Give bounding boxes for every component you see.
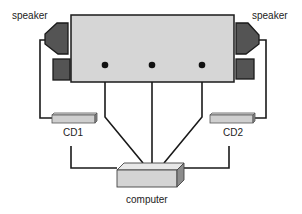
cd2-side: [253, 113, 255, 123]
cd2-drive: CD2: [210, 113, 255, 138]
wire-speaker-right-cd2: [254, 40, 266, 118]
speaker-left: speaker: [12, 10, 70, 80]
wire-cd1-computer: [71, 146, 117, 168]
cd1-label: CD1: [63, 127, 83, 138]
computer-front: [117, 170, 177, 187]
cd1-front: [52, 115, 95, 123]
wire-speaker-left-cd1: [40, 40, 52, 118]
speaker-left-horn-icon: [45, 23, 68, 54]
connection-diagram: speaker speaker CD1 CD2 computer: [0, 0, 302, 214]
cd1-side: [95, 113, 97, 123]
port-dot-3: [199, 62, 206, 69]
port-dot-2: [149, 62, 156, 69]
main-unit: [71, 15, 234, 82]
speaker-left-label: speaker: [12, 10, 48, 21]
speaker-right-label: speaker: [252, 10, 288, 21]
speaker-right-base-icon: [236, 59, 254, 79]
cd1-drive: CD1: [52, 113, 97, 138]
speaker-right-horn-icon: [236, 23, 259, 54]
main-unit-box: [71, 15, 234, 82]
speaker-left-base-icon: [53, 59, 70, 80]
cd2-front: [210, 115, 253, 123]
speaker-right: speaker: [236, 10, 288, 79]
computer-label: computer: [126, 194, 168, 205]
computer-top: [117, 163, 184, 170]
port-dot-1: [102, 62, 109, 69]
computer: computer: [117, 163, 184, 205]
wire-cd2-computer: [184, 146, 229, 168]
cd2-label: CD2: [223, 127, 243, 138]
